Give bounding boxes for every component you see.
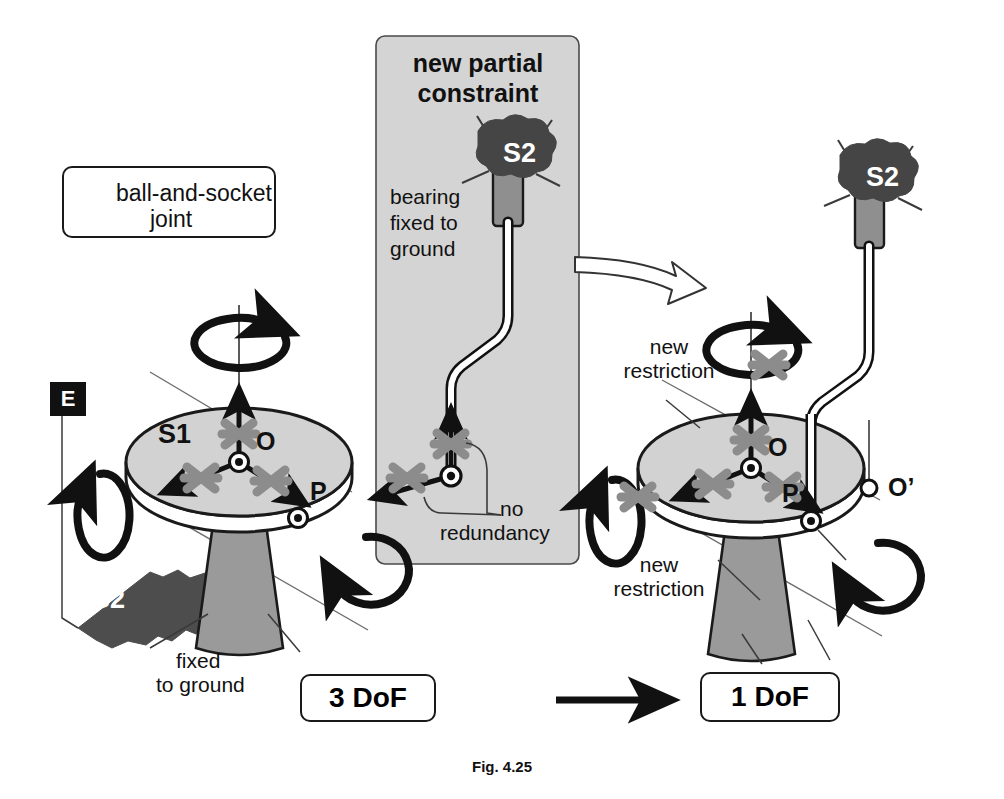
left-joint-p-label: P: [310, 478, 327, 504]
right-joint-oprime: [861, 480, 877, 496]
left-rotation-arrow-left: [77, 474, 129, 558]
no-redundancy-line1: no: [500, 498, 523, 520]
right-dof-label: 1 DoF: [731, 681, 809, 713]
right-free-rotation: [849, 543, 921, 611]
left-pedestal: [196, 524, 283, 655]
right-restriction-top-line1: new: [596, 336, 742, 358]
right-joint-o-label: O: [768, 434, 787, 460]
figure-caption: Fig. 4.25: [0, 758, 1004, 775]
left-pedestal-note-line2: to ground: [156, 674, 245, 696]
left-dof-box: 3 DoF: [300, 674, 436, 722]
right-restriction-bottom-line2: restriction: [586, 578, 732, 600]
right-joint-p-label: P: [782, 480, 799, 506]
right-blocked-rotation-left: [589, 480, 655, 564]
left-joint-p: [289, 509, 308, 528]
legend-label-line2: joint: [150, 208, 192, 232]
right-joint-o: [742, 459, 761, 478]
right-restriction-bottom-line1: new: [586, 554, 732, 576]
center-panel-background: [376, 36, 579, 564]
environment-label-e: E: [50, 382, 86, 416]
center-panel-title-line1: new partial: [384, 50, 572, 76]
right-pedestal-leader-b: [808, 620, 830, 660]
right-joint-oprime-label: O’: [888, 474, 914, 500]
transfer-arrow: [575, 257, 706, 304]
left-body-label-s1: S1: [158, 420, 191, 448]
center-bearing-label-s2: S2: [503, 139, 536, 167]
center-bearing-note-line3: ground: [390, 238, 455, 260]
right-restriction-top-line2: restriction: [596, 360, 742, 382]
center-bearing-note-line2: fixed to: [390, 212, 458, 234]
left-joint-o: [230, 453, 249, 472]
right-dof-box: 1 DoF: [700, 672, 840, 722]
right-joint-p-leader: [818, 530, 846, 560]
left-dof-label: 3 DoF: [329, 682, 407, 714]
diagram-canvas: [0, 0, 1004, 799]
right-joint-p: [802, 512, 821, 531]
left-joint-o-label: O: [256, 428, 275, 454]
no-redundancy-line2: redundancy: [440, 522, 550, 544]
center-bearing-note-line1: bearing: [390, 186, 460, 208]
center-panel-title-line2: constraint: [384, 80, 572, 106]
figure-4-25: ball-and-socket joint E S2 S1 O P fixed …: [0, 0, 1004, 799]
legend-label-line1: ball-and-socket: [116, 182, 272, 206]
right-bearing-label-s2: S2: [866, 163, 899, 191]
center-joint: [441, 466, 461, 486]
left-rotation-arrow-lower: [337, 537, 409, 605]
left-rotation-arrow-vertical: [194, 318, 286, 368]
left-pedestal-note-line1: fixed: [176, 650, 220, 672]
left-ground-patch-label: S2: [92, 585, 125, 613]
